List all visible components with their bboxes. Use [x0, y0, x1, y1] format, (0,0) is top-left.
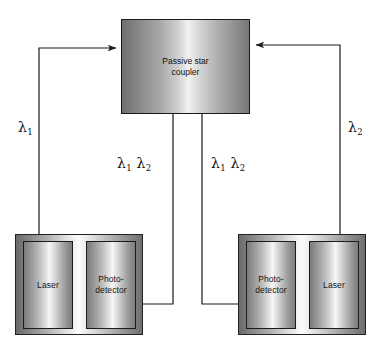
right-node[interactable]: Photo- detector Laser	[238, 234, 366, 335]
left-photodetector-label: Photo- detector	[95, 274, 127, 296]
right-laser[interactable]: Laser	[309, 241, 359, 329]
connection-right-laser-to-coupler	[256, 45, 340, 247]
lambda-1-2-right-label: λ1λ2	[211, 155, 245, 171]
lambda-1-2-left-label: λ1λ2	[117, 155, 151, 171]
left-node[interactable]: Laser Photo- detector	[15, 234, 143, 335]
left-laser-uplink-path	[39, 48, 116, 247]
lambda-1-left-label: λ1	[18, 119, 33, 135]
left-photodetector[interactable]: Photo- detector	[86, 241, 136, 329]
left-laser-label: Laser	[37, 280, 59, 291]
right-photodetector[interactable]: Photo- detector	[246, 241, 296, 329]
left-laser[interactable]: Laser	[23, 241, 73, 329]
passive-star-coupler-label: Passive star coupler	[122, 55, 249, 78]
right-laser-label: Laser	[323, 280, 345, 291]
passive-star-coupler[interactable]: Passive star coupler	[121, 19, 250, 114]
right-laser-uplink-path	[256, 45, 340, 247]
lambda-2-right-label: λ2	[348, 119, 363, 135]
right-photodetector-label: Photo- detector	[255, 274, 287, 296]
connection-left-laser-to-coupler	[39, 48, 116, 247]
diagram-canvas: Passive star coupler Laser Photo- detect…	[0, 0, 379, 361]
